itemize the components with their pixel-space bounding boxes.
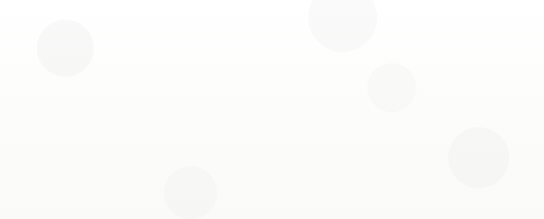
building-bay [162,145,206,186]
window-pane [365,122,381,135]
building-floor [31,102,249,145]
bay-window [306,153,337,179]
bay-window [213,153,242,179]
caption-d: (d) [388,191,428,201]
window-pane [56,83,66,92]
window-pane [56,126,66,135]
building-floor [31,59,249,102]
caption-a: (a) [136,36,176,46]
bay-window [306,110,337,136]
window-pane [232,126,242,135]
window-pane [483,79,499,92]
bay-window [350,110,381,136]
window-pane [351,122,367,135]
building-door [400,153,420,186]
window-pane [483,165,499,178]
bay-window [483,67,514,93]
bay-window [82,67,111,93]
window-pane [409,79,425,92]
building-bay [433,145,477,186]
building-bay [433,102,477,143]
bay-window [82,153,111,179]
window-pane [144,83,154,92]
bay-window [439,153,470,179]
ground-line-b [14,187,252,189]
key-window-a [141,7,171,33]
caption-b: (b) [120,191,160,201]
window-pane [188,83,198,92]
building-bay [31,145,75,186]
bay-window [38,153,67,179]
building-bay [388,102,432,143]
building-bay [344,102,388,143]
window-pane [439,165,455,178]
window-pane [454,122,470,135]
bay-window [395,110,426,136]
building-bay [31,102,75,143]
building-bay [477,102,520,143]
building-floor [300,59,520,102]
building-floor [31,145,249,186]
bay-window [350,67,381,93]
building-door [130,153,150,186]
window-pane [232,169,242,178]
building-bay [75,145,119,186]
building-bay [162,59,206,100]
window-pane [404,19,419,32]
bay-window [169,110,198,136]
window-pane [483,122,499,135]
ground-line-d [283,187,523,189]
window-pane [307,79,323,92]
bay-window [169,153,198,179]
bay-window [38,67,67,93]
building-bay [119,59,163,100]
building-bay [300,102,344,143]
building-floor [300,102,520,145]
bay-window [82,110,111,136]
window-pane [100,126,110,135]
building-bay [75,102,119,143]
window-pane [160,23,170,32]
bay-window [439,110,470,136]
window-pane [395,79,411,92]
window-pane [395,122,411,135]
building-b [29,57,251,188]
window-pane [321,165,337,178]
building-bay [31,59,75,100]
window-pane [100,169,110,178]
bay-window [125,110,154,136]
window-pane [188,169,198,178]
window-pane [498,122,514,135]
building-bay [344,59,388,100]
bay-window [125,67,154,93]
building-bay [206,145,249,186]
figure-root: (a) (c) [0,0,544,219]
building-bay [300,145,344,186]
window-pane [498,79,514,92]
bay-window [38,110,67,136]
window-pane [418,19,433,32]
building-d [298,57,522,188]
window-pane [188,126,198,135]
bay-window [306,67,337,93]
window-pane [409,122,425,135]
building-bay [206,59,249,100]
building-bay [477,59,520,100]
building-bay [388,59,432,100]
window-pane [498,165,514,178]
building-bay [477,145,520,186]
building-floor [300,145,520,186]
bay-window [350,153,381,179]
bay-window [483,110,514,136]
window-pane [439,79,455,92]
window-pane [439,122,455,135]
window-pane [351,165,367,178]
window-pane [351,79,367,92]
bay-window [395,67,426,93]
window-pane [56,169,66,178]
building-bay-door [388,145,432,186]
key-window-c [404,7,433,33]
bay-window [169,67,198,93]
window-pane [365,79,381,92]
building-bay [344,145,388,186]
